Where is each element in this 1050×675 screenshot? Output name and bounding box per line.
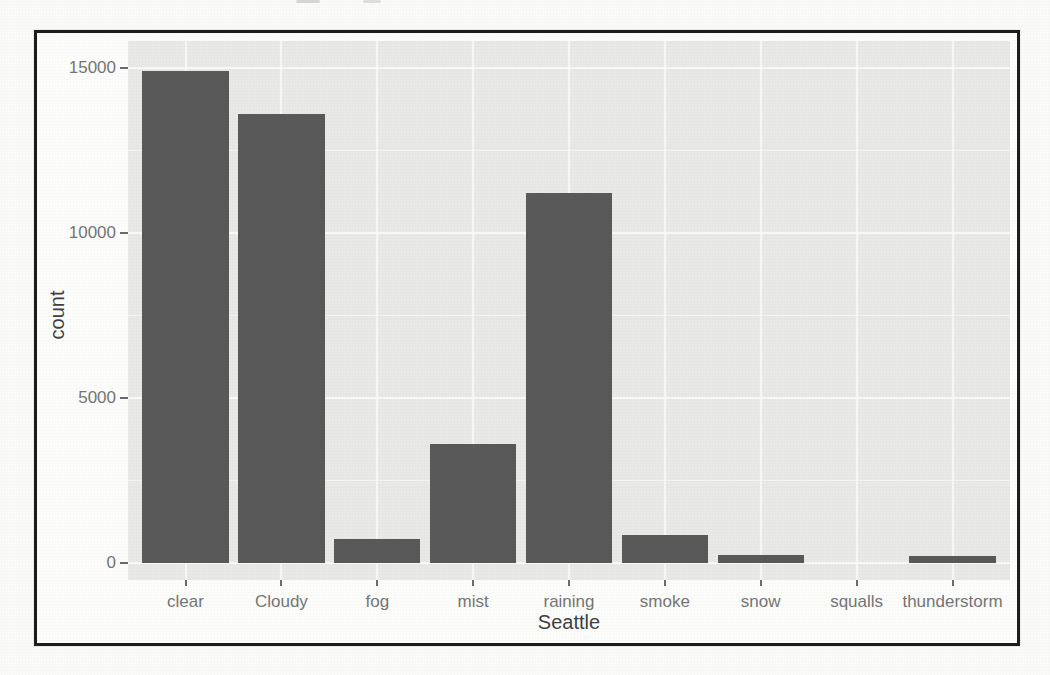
page: count Seattle clearCloudyfogmistrainings…	[0, 0, 1050, 675]
bar-chart: count Seattle clearCloudyfogmistrainings…	[0, 0, 1050, 675]
x-tick-snow	[760, 580, 762, 586]
x-tick-smoke	[664, 580, 666, 586]
x-tick-thunderstorm	[952, 580, 954, 586]
gridline-vertical-squalls	[856, 41, 858, 580]
y-tick-0	[120, 562, 128, 564]
gridline-vertical-snow	[760, 41, 762, 580]
gridline-vertical-smoke	[664, 41, 666, 580]
x-tick-Cloudy	[280, 580, 282, 586]
x-tick-squalls	[856, 580, 858, 586]
y-tick-label-10000: 10000	[38, 223, 116, 243]
y-tick-label-15000: 15000	[38, 58, 116, 78]
x-axis-title: Seattle	[128, 611, 1010, 634]
bar-thunderstorm	[909, 556, 995, 563]
bar-snow	[718, 555, 804, 563]
x-tick-mist	[472, 580, 474, 586]
bar-raining	[526, 193, 612, 563]
plot-panel	[128, 41, 1010, 580]
bar-fog	[334, 539, 420, 563]
bar-smoke	[622, 535, 708, 563]
bar-mist	[430, 444, 516, 563]
gridline-vertical-fog	[376, 41, 378, 580]
bar-Cloudy	[238, 114, 324, 563]
x-tick-label-thunderstorm: thunderstorm	[891, 592, 1015, 612]
y-axis-title: count	[46, 291, 69, 340]
y-tick-label-5000: 5000	[38, 388, 116, 408]
gridline-vertical-thunderstorm	[952, 41, 954, 580]
y-tick-15000	[120, 67, 128, 69]
bar-clear	[142, 71, 228, 563]
x-tick-raining	[568, 580, 570, 586]
x-tick-clear	[185, 580, 187, 586]
y-tick-label-0: 0	[38, 553, 116, 573]
y-tick-10000	[120, 232, 128, 234]
y-tick-5000	[120, 397, 128, 399]
x-tick-fog	[376, 580, 378, 586]
